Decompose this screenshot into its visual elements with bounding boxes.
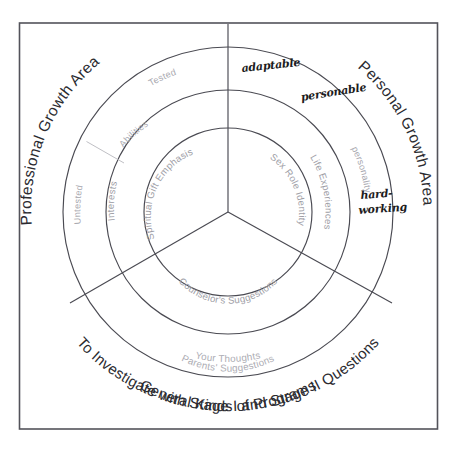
diagram-canvas: Professional Growth Area Personal Growth… bbox=[0, 0, 456, 452]
growth-area-diagram: Professional Growth Area Personal Growth… bbox=[0, 0, 456, 452]
note-hard-working-line1: hard- bbox=[360, 188, 393, 202]
